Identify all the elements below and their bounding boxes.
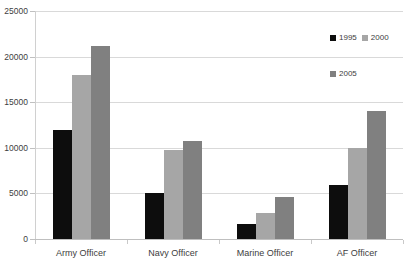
x-axis-tick-mark <box>403 240 404 244</box>
x-axis-label-marine-officer: Marine Officer <box>219 248 311 259</box>
x-axis-tick-mark <box>35 240 36 244</box>
bar-2000-army-officer[interactable] <box>72 75 91 239</box>
x-axis-label-af-officer: AF Officer <box>311 248 403 259</box>
bar-1995-navy-officer[interactable] <box>145 193 164 240</box>
y-axis-tick-label: 20000 <box>0 53 28 61</box>
bar-2000-navy-officer[interactable] <box>164 150 183 239</box>
bar-2000-marine-officer[interactable] <box>256 213 275 239</box>
y-axis-tick-label: 5000 <box>0 189 28 197</box>
legend-label-2005: 2005 <box>339 70 357 78</box>
y-axis-tick-label: 15000 <box>0 98 28 106</box>
legend-swatch-icon-2000 <box>362 35 368 41</box>
y-axis-tick-label: 0 <box>0 235 28 243</box>
bar-2005-army-officer[interactable] <box>91 46 110 239</box>
chart-title <box>0 0 405 4</box>
x-axis-tick-mark <box>219 240 220 244</box>
x-axis-label-army-officer: Army Officer <box>35 248 127 259</box>
legend-swatch-icon-2005 <box>330 71 336 77</box>
bar-1995-army-officer[interactable] <box>53 130 72 239</box>
legend-item-1995[interactable]: 1995 <box>330 34 357 42</box>
bar-1995-af-officer[interactable] <box>329 185 348 239</box>
legend: 1995 2000 2005 <box>330 34 405 86</box>
bar-2005-navy-officer[interactable] <box>183 141 202 239</box>
bar-1995-marine-officer[interactable] <box>237 224 256 239</box>
x-axis-label-navy-officer: Navy Officer <box>127 248 219 259</box>
y-axis-tick-label: 25000 <box>0 7 28 15</box>
bar-chart: 0500010000150002000025000 Army OfficerNa… <box>0 0 405 267</box>
x-axis-tick-mark <box>127 240 128 244</box>
bar-2000-af-officer[interactable] <box>348 148 367 239</box>
bar-2005-af-officer[interactable] <box>367 111 386 239</box>
y-axis-tick-label: 10000 <box>0 144 28 152</box>
legend-item-2005[interactable]: 2005 <box>330 70 357 78</box>
legend-label-1995: 1995 <box>339 34 357 42</box>
bar-2005-marine-officer[interactable] <box>275 197 294 239</box>
legend-swatch-icon-1995 <box>330 35 336 41</box>
x-axis-tick-mark <box>311 240 312 244</box>
legend-label-2000: 2000 <box>371 34 389 42</box>
legend-item-2000[interactable]: 2000 <box>362 34 389 42</box>
